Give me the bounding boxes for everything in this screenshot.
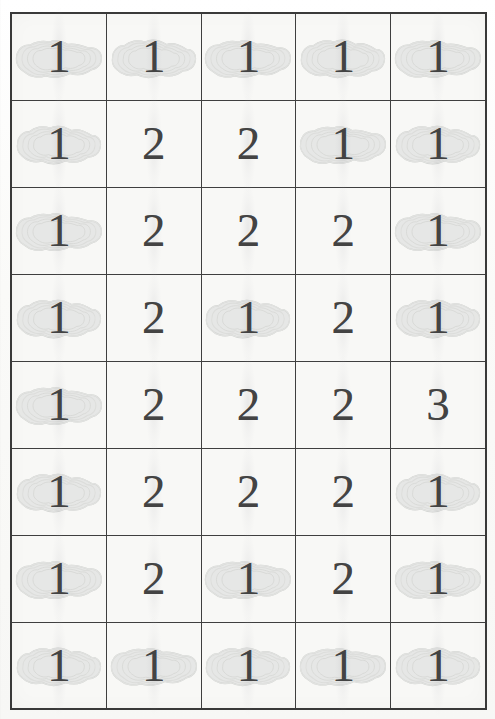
cell-digit: 2 [332, 207, 356, 254]
cell-digit: 1 [426, 468, 450, 515]
grid-cell-r2-c1[interactable]: 1 [11, 100, 106, 187]
grid-cell-r6-c5[interactable]: 1 [391, 448, 486, 535]
table-row: 12121 [11, 274, 486, 361]
grid-cell-r1-c4[interactable]: 1 [296, 13, 391, 100]
grid-cell-r6-c3[interactable]: 2 [201, 448, 296, 535]
table-row: 12211 [11, 100, 486, 187]
grid-cell-r3-c3[interactable]: 2 [201, 187, 296, 274]
grid-cell-r8-c2[interactable]: 1 [106, 622, 201, 709]
cell-content: 1 [12, 14, 106, 100]
grid-cell-r7-c4[interactable]: 2 [296, 535, 391, 622]
cell-digit: 2 [237, 120, 261, 167]
grid-cell-r5-c2[interactable]: 2 [106, 361, 201, 448]
cell-digit: 1 [426, 642, 450, 689]
grid-cell-r8-c5[interactable]: 1 [391, 622, 486, 709]
cell-content: 1 [12, 623, 106, 709]
cell-content: 1 [202, 275, 296, 361]
grid-cell-r1-c3[interactable]: 1 [201, 13, 296, 100]
grid-cell-r3-c5[interactable]: 1 [391, 187, 486, 274]
cell-digit: 2 [332, 468, 356, 515]
grid-cell-r5-c4[interactable]: 2 [296, 361, 391, 448]
table-row: 12223 [11, 361, 486, 448]
cell-digit: 1 [426, 120, 450, 167]
cell-content: 1 [296, 14, 390, 100]
cell-content: 1 [391, 101, 485, 187]
cell-content: 2 [296, 275, 390, 361]
cell-content: 2 [296, 362, 390, 448]
grid-cell-r8-c3[interactable]: 1 [201, 622, 296, 709]
grid-cell-r6-c2[interactable]: 2 [106, 448, 201, 535]
grid-cell-r2-c3[interactable]: 2 [201, 100, 296, 187]
grid-cell-r7-c5[interactable]: 1 [391, 535, 486, 622]
grid-cell-r1-c5[interactable]: 1 [391, 13, 486, 100]
cell-content: 1 [202, 536, 296, 622]
cell-content: 1 [107, 623, 201, 709]
cell-digit: 2 [142, 294, 166, 341]
grid-cell-r6-c1[interactable]: 1 [11, 448, 106, 535]
cell-digit: 1 [426, 33, 450, 80]
cell-digit: 1 [426, 294, 450, 341]
cell-digit: 1 [47, 294, 71, 341]
cell-content: 2 [296, 188, 390, 274]
cell-digit: 1 [47, 120, 71, 167]
cell-content: 1 [296, 101, 390, 187]
grid-cell-r2-c2[interactable]: 2 [106, 100, 201, 187]
cell-content: 1 [391, 14, 485, 100]
cell-content: 1 [391, 449, 485, 535]
cell-content: 1 [107, 14, 201, 100]
grid-cell-r3-c4[interactable]: 2 [296, 187, 391, 274]
cell-content: 2 [296, 536, 390, 622]
cell-content: 1 [12, 101, 106, 187]
grid-cell-r5-c1[interactable]: 1 [11, 361, 106, 448]
cell-digit: 1 [332, 33, 356, 80]
cell-digit: 1 [237, 33, 261, 80]
grid-container: 1111112211122211212112223122211212111111 [10, 12, 487, 710]
cell-digit: 2 [332, 294, 356, 341]
grid-cell-r7-c3[interactable]: 1 [201, 535, 296, 622]
grid-cell-r4-c5[interactable]: 1 [391, 274, 486, 361]
grid-cell-r6-c4[interactable]: 2 [296, 448, 391, 535]
grid-cell-r5-c5[interactable]: 3 [391, 361, 486, 448]
grid-cell-r4-c2[interactable]: 2 [106, 274, 201, 361]
cell-content: 2 [107, 101, 201, 187]
grid-cell-r7-c1[interactable]: 1 [11, 535, 106, 622]
cell-content: 2 [107, 188, 201, 274]
grid-cell-r4-c4[interactable]: 2 [296, 274, 391, 361]
cell-digit: 1 [142, 33, 166, 80]
table-row: 12221 [11, 448, 486, 535]
cell-digit: 1 [237, 294, 261, 341]
table-row: 11111 [11, 13, 486, 100]
cell-content: 1 [296, 623, 390, 709]
grid-cell-r3-c2[interactable]: 2 [106, 187, 201, 274]
scanned-page: 1111112211122211212112223122211212111111 [0, 0, 495, 719]
cell-digit: 2 [237, 381, 261, 428]
cell-content: 2 [202, 188, 296, 274]
cell-digit: 2 [142, 468, 166, 515]
grid-cell-r3-c1[interactable]: 1 [11, 187, 106, 274]
cell-content: 2 [107, 449, 201, 535]
grid-cell-r2-c5[interactable]: 1 [391, 100, 486, 187]
cell-content: 2 [202, 101, 296, 187]
cell-content: 1 [202, 623, 296, 709]
cell-content: 1 [12, 449, 106, 535]
grid-cell-r5-c3[interactable]: 2 [201, 361, 296, 448]
grid-cell-r4-c1[interactable]: 1 [11, 274, 106, 361]
grid-cell-r8-c1[interactable]: 1 [11, 622, 106, 709]
cell-digit: 1 [47, 381, 71, 428]
grid-cell-r8-c4[interactable]: 1 [296, 622, 391, 709]
cell-content: 1 [12, 275, 106, 361]
cell-content: 1 [391, 623, 485, 709]
cell-content: 1 [202, 14, 296, 100]
grid-cell-r1-c2[interactable]: 1 [106, 13, 201, 100]
cell-content: 2 [202, 362, 296, 448]
cell-digit: 1 [142, 642, 166, 689]
table-row: 12221 [11, 187, 486, 274]
grid-cell-r4-c3[interactable]: 1 [201, 274, 296, 361]
cell-content: 1 [391, 188, 485, 274]
cell-digit: 2 [332, 381, 356, 428]
cell-content: 1 [12, 362, 106, 448]
grid-cell-r7-c2[interactable]: 2 [106, 535, 201, 622]
grid-cell-r2-c4[interactable]: 1 [296, 100, 391, 187]
grid-cell-r1-c1[interactable]: 1 [11, 13, 106, 100]
cell-content: 1 [391, 536, 485, 622]
